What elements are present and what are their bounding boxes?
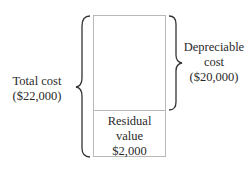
total-cost-label: Total cost ($22,000) [2,74,72,104]
residual-title-2: value [93,129,166,144]
residual-value-label: Residual value $2,000 [93,114,166,159]
total-cost-value: ($22,000) [2,89,72,104]
left-brace-icon [76,16,90,157]
total-cost-title: Total cost [2,74,72,89]
residual-value: $2,000 [93,144,166,159]
depreciable-cost-title: Depreciable [178,40,250,55]
depreciable-cost-value: ($20,000) [178,70,250,85]
depreciable-cost-title-2: cost [178,55,250,70]
residual-title: Residual [93,114,166,129]
depreciable-cost-label: Depreciable cost ($20,000) [178,40,250,85]
